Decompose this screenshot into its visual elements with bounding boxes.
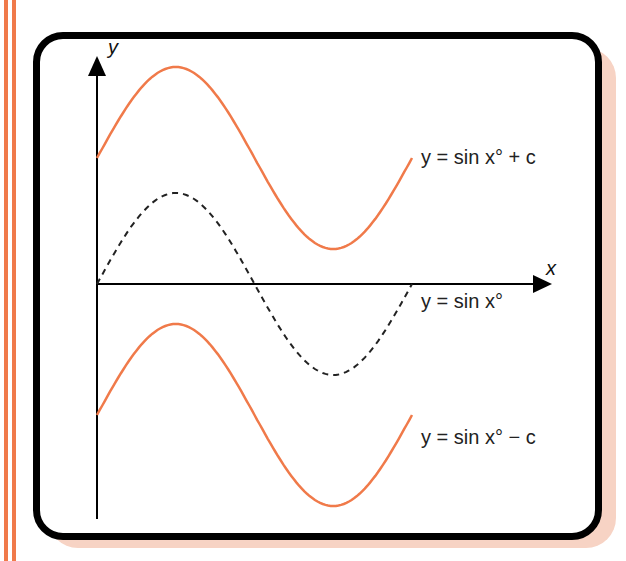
- curve-sin-minus-c: [97, 324, 412, 506]
- y-axis-label: y: [108, 36, 118, 59]
- label-sin-minus-c: y = sin x° − c: [421, 426, 536, 449]
- sine-translation-graph: [0, 0, 626, 561]
- curve-sin-plus-c: [97, 67, 412, 249]
- label-sin: y = sin x°: [421, 290, 503, 313]
- y-axis-arrow-icon: [88, 56, 106, 76]
- x-axis-label: x: [546, 257, 556, 280]
- label-sin-plus-c: y = sin x° + c: [421, 146, 536, 169]
